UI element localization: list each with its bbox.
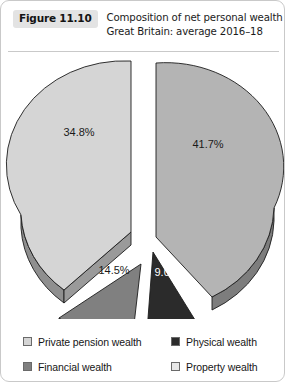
figure-title: Composition of net personal wealth in Gr… <box>107 10 285 39</box>
figure-title-line-1: Composition of net personal wealth in <box>107 11 285 25</box>
pie-label-financial-wealth: 14.5% <box>98 264 129 276</box>
figure-header: Figure 11.10 Composition of net personal… <box>1 1 285 51</box>
legend-item-financial-wealth[interactable]: Financial wealth <box>23 354 171 379</box>
figure-title-line-2: Great Britain: average 2016–18 <box>107 25 285 39</box>
figure-card: Figure 11.10 Composition of net personal… <box>0 0 285 382</box>
legend-label: Private pension wealth <box>38 336 141 348</box>
legend-label: Financial wealth <box>38 361 112 373</box>
legend-label: Property wealth <box>186 361 257 373</box>
legend-swatch-icon <box>171 362 180 371</box>
pie-chart: 34.8% 41.7% 14.5% 9.0% <box>1 52 285 319</box>
chart-legend: Private pension wealth Physical wealth F… <box>1 323 285 382</box>
legend-item-private-pension-wealth[interactable]: Private pension wealth <box>23 329 171 354</box>
pie-label-private-pension-wealth: 34.8% <box>63 126 94 138</box>
figure-number-badge: Figure 11.10 <box>13 10 98 28</box>
legend-item-property-wealth[interactable]: Property wealth <box>171 354 276 379</box>
legend-swatch-icon <box>23 362 32 371</box>
pie-chart-svg: 34.8% 41.7% 14.5% 9.0% <box>1 52 285 319</box>
legend-swatch-icon <box>23 337 32 346</box>
legend-label: Physical wealth <box>186 336 257 348</box>
legend-item-physical-wealth[interactable]: Physical wealth <box>171 329 276 354</box>
pie-label-property-wealth: 41.7% <box>192 138 223 150</box>
pie-label-physical-wealth: 9.0% <box>154 266 179 278</box>
legend-swatch-icon <box>171 337 180 346</box>
